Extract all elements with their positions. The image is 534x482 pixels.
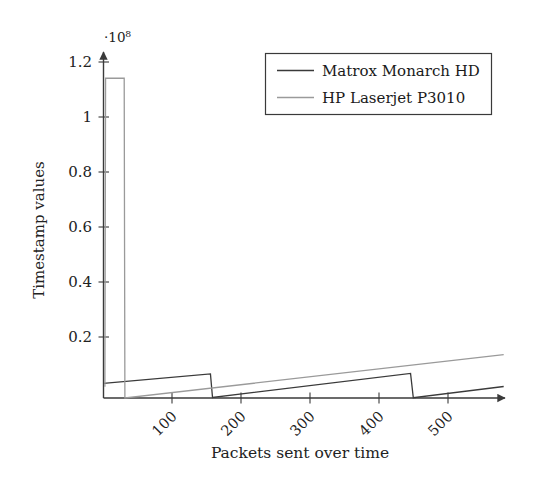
chart-plot-area: 1.2 1 0.8 0.6 0.4 0.2 ·10⁸ 100 200 300 4… [0, 0, 534, 482]
x-tick-label-100: 100 [149, 408, 180, 439]
y-axis-multiplier-label: ·10⁸ [104, 29, 131, 45]
y-tick-label-0.8: 0.8 [68, 163, 92, 181]
y-tick-label-0.4: 0.4 [68, 273, 92, 291]
chart-figure: 1.2 1 0.8 0.6 0.4 0.2 ·10⁸ 100 200 300 4… [0, 0, 534, 482]
y-axis-title: Timestamp values [30, 161, 48, 299]
y-tick-label-1.2: 1.2 [68, 53, 92, 71]
x-axis-title: Packets sent over time [211, 444, 389, 462]
x-tick-label-400: 400 [356, 408, 387, 439]
legend-label-hp-laserjet-p3010: HP Laserjet P3010 [322, 89, 465, 107]
x-tick-label-500: 500 [425, 408, 456, 439]
y-tick-label-1: 1 [82, 108, 92, 126]
legend-label-matrox-monarch-hd: Matrox Monarch HD [322, 62, 480, 80]
y-tick-label-0.6: 0.6 [68, 218, 92, 236]
x-tick-label-200: 200 [218, 408, 249, 439]
series-line-hp-laserjet-p3010 [105, 78, 504, 398]
x-tick-label-300: 300 [287, 408, 318, 439]
y-tick-label-0.2: 0.2 [68, 328, 92, 346]
data-series-layer [104, 78, 504, 398]
